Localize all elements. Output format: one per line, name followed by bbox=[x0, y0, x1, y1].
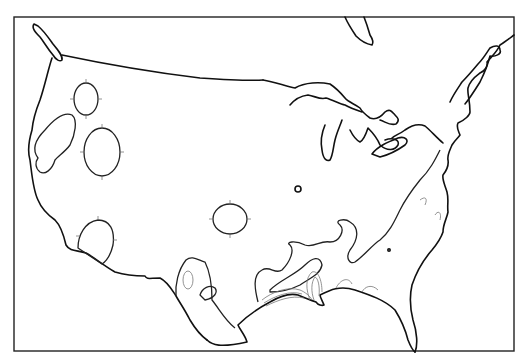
contour-band-main bbox=[255, 150, 440, 302]
contour-high-1 bbox=[74, 83, 98, 115]
contour-inner-loop bbox=[270, 259, 322, 292]
map-frame bbox=[0, 0, 526, 363]
contour-high-5 bbox=[213, 204, 247, 234]
contour-band-west bbox=[176, 258, 235, 328]
contour-high-4 bbox=[78, 220, 113, 264]
contour-high-2 bbox=[35, 114, 75, 173]
contour-small-loop bbox=[200, 286, 216, 300]
inner-contours bbox=[183, 198, 441, 306]
contour-high-3 bbox=[84, 128, 120, 176]
contours bbox=[35, 83, 440, 328]
us-contour-map bbox=[0, 0, 526, 363]
map-border bbox=[14, 17, 514, 351]
coastline bbox=[29, 17, 514, 352]
